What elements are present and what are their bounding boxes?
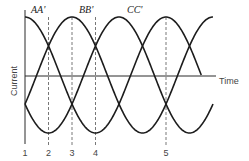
- y-axis-label: Current: [9, 65, 19, 96]
- series-curve-2: [25, 17, 213, 133]
- series-label-aa: AA': [30, 4, 46, 15]
- series-curve-1: [25, 17, 201, 133]
- marker-label-1: 1: [22, 148, 27, 158]
- marker-label-2: 2: [46, 148, 51, 158]
- marker-label-4: 4: [93, 148, 98, 158]
- series-label-cc: CC': [127, 4, 143, 15]
- marker-label-3: 3: [69, 148, 74, 158]
- marker-label-5: 5: [163, 148, 168, 158]
- series-label-bb: BB': [79, 4, 94, 15]
- three-phase-current-diagram: Time Current AA' BB' CC' 12345: [0, 0, 249, 161]
- x-axis-label: Time: [219, 76, 239, 86]
- series-curve-3: [25, 17, 213, 133]
